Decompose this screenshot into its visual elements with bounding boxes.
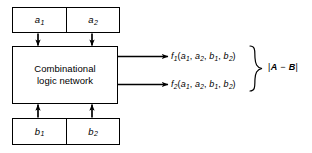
cell-sub-b2: 2 bbox=[94, 130, 98, 137]
f2-arg3-var: b bbox=[209, 79, 214, 89]
f2-index: 2 bbox=[174, 83, 178, 90]
cell-var-b1: b bbox=[35, 127, 40, 137]
logic-block-label-line2: logic network bbox=[37, 75, 93, 86]
logic-block-label: Combinational logic network bbox=[34, 63, 95, 87]
output-label-f2: f2(a1, a2, b1, b2) bbox=[171, 80, 236, 89]
f2-arg4-var: b bbox=[224, 79, 229, 89]
grouping-brace bbox=[250, 46, 262, 91]
f1-sep-3: , bbox=[218, 51, 221, 61]
result-label: |A − B| bbox=[268, 63, 298, 72]
f1-sep-2: , bbox=[204, 51, 207, 61]
f1-arg3-sub: 1 bbox=[215, 55, 219, 62]
f1-arg4-sub: 2 bbox=[229, 55, 233, 62]
f1-arg3-var: b bbox=[209, 51, 214, 61]
f1-arg4-var: b bbox=[224, 51, 229, 61]
f2-arg1-sub: 1 bbox=[186, 83, 190, 90]
f2-sep-3: , bbox=[218, 79, 221, 89]
result-operand-a: A bbox=[271, 62, 278, 72]
block-diagram: a1 a2 Combinational logic network b1 b2 bbox=[0, 0, 312, 153]
cell-var-a1: a bbox=[35, 15, 40, 25]
f2-sep-2: , bbox=[204, 79, 207, 89]
logic-block-label-line1: Combinational bbox=[34, 63, 95, 74]
f1-arg2-sub: 2 bbox=[200, 55, 204, 62]
register-cell-a2: a2 bbox=[66, 8, 119, 32]
cell-sub-b1: 1 bbox=[40, 130, 44, 137]
combinational-logic-block: Combinational logic network bbox=[12, 46, 118, 104]
register-cell-a1: a1 bbox=[13, 8, 66, 32]
cell-var-a2: a bbox=[88, 15, 93, 25]
cell-sub-a1: 1 bbox=[40, 19, 44, 26]
f1-index: 1 bbox=[174, 55, 178, 62]
f2-arg2-sub: 2 bbox=[200, 83, 204, 90]
cell-sub-a2: 2 bbox=[94, 19, 98, 26]
f2-arg4-sub: 2 bbox=[229, 83, 233, 90]
input-register-b: b1 b2 bbox=[12, 118, 120, 145]
f1-sep-1: , bbox=[190, 51, 193, 61]
result-right-bar: | bbox=[295, 62, 298, 72]
cell-var-b2: b bbox=[88, 127, 93, 137]
output-label-f1: f1(a1, a2, b1, b2) bbox=[171, 52, 236, 61]
input-register-a: a1 a2 bbox=[12, 7, 120, 33]
result-operator: − bbox=[280, 62, 286, 72]
f2-arg3-sub: 1 bbox=[215, 83, 219, 90]
register-cell-b1: b1 bbox=[13, 119, 66, 144]
f2-sep-1: , bbox=[190, 79, 193, 89]
f1-arg1-sub: 1 bbox=[186, 55, 190, 62]
register-cell-b2: b2 bbox=[66, 119, 119, 144]
